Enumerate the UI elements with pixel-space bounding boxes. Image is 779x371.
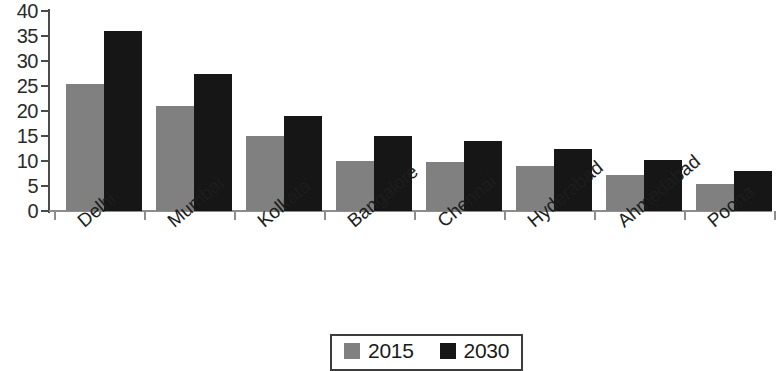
x-axis-tick — [234, 211, 236, 220]
y-axis-tick-label: 25 — [0, 76, 38, 96]
y-axis-tick-label: 10 — [0, 151, 38, 171]
x-axis-tick — [684, 211, 686, 220]
legend-item-2015: 2015 — [344, 340, 414, 361]
black-swatch-icon — [440, 343, 456, 359]
x-axis-tick — [324, 211, 326, 220]
x-axis-tick — [594, 211, 596, 220]
bar-delhi-2015 — [66, 84, 104, 212]
legend-label-2030: 2030 — [464, 340, 510, 361]
chart-legend: 2015 2030 — [330, 334, 523, 371]
bar-delhi-2030 — [104, 31, 142, 211]
x-axis-tick — [414, 211, 416, 220]
legend-item-2030: 2030 — [440, 340, 510, 361]
y-axis-tick-label: 15 — [0, 126, 38, 146]
x-axis-tick — [144, 211, 146, 220]
y-axis-tick-label: 30 — [0, 51, 38, 71]
y-axis-tick-label: 0 — [0, 201, 38, 221]
y-axis-tick-label: 40 — [0, 1, 38, 21]
y-axis-tick-label: 5 — [0, 176, 38, 196]
x-axis-tick — [774, 211, 776, 220]
x-axis-tick — [504, 211, 506, 220]
y-axis-tick-label: 35 — [0, 26, 38, 46]
x-axis-tick — [54, 211, 56, 220]
gray-swatch-icon — [344, 343, 360, 359]
y-axis-tick-label: 20 — [0, 101, 38, 121]
legend-label-2015: 2015 — [368, 340, 414, 361]
